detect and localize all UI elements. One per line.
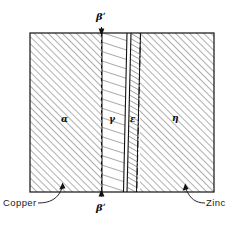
alpha-phase-region <box>30 33 102 192</box>
phase-diagram-figure: βʹ βʹ α γ ε η Copper Zinc <box>0 0 241 230</box>
eta-phase-region <box>140 33 214 192</box>
gamma-phase-region <box>102 33 127 192</box>
diagram-canvas <box>0 0 241 230</box>
